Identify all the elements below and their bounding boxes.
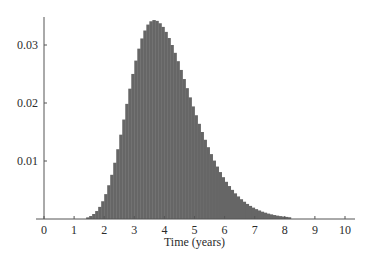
histogram-bar [149,21,152,219]
x-tick-label: 3 [131,223,137,237]
histogram-bar [161,27,164,219]
histogram-bar [119,135,122,219]
x-tick-label: 8 [282,223,288,237]
x-axis-title: Time (years) [164,235,225,249]
histogram-bar [137,49,140,219]
histogram-bar [273,215,276,219]
histogram-bar [107,185,110,219]
histogram-bar [267,214,270,219]
histogram-bar [98,207,101,219]
histogram-bar [195,115,198,219]
histogram-bar [234,193,237,219]
histogram-bar [158,23,161,219]
histogram-bar [152,20,155,219]
x-tick-label: 1 [71,223,77,237]
histogram-bar [182,79,185,219]
histogram-bar [146,25,149,219]
histogram-bar [176,61,179,219]
histogram-bar [125,104,128,219]
histogram-bar [164,32,167,219]
histogram-bar [219,172,222,219]
x-tick-label: 2 [101,223,107,237]
x-tick-label: 10 [339,223,351,237]
histogram-bar [131,74,134,219]
y-tick-label: 0.02 [17,96,38,110]
histogram-bar [243,202,246,219]
histogram-bar [128,89,131,219]
histogram-bar [173,53,176,219]
histogram-bar [204,140,207,219]
histogram-bar [213,161,216,219]
histogram-bar [198,124,201,219]
y-tick-label: 0.01 [17,154,38,168]
histogram-bars [86,20,291,219]
histogram-bar [255,209,258,219]
histogram-bar [155,21,158,219]
histogram-bar [143,31,146,220]
histogram-bar [188,97,191,219]
histogram-bar [240,199,243,219]
histogram-bar [264,213,267,219]
histogram-bar [231,190,234,219]
histogram-bar [134,61,137,219]
x-tick-label: 7 [252,223,258,237]
histogram-bar [140,38,143,219]
histogram-bar [113,163,116,219]
histogram-bar [246,204,249,219]
histogram-bar [167,38,170,219]
y-tick-label: 0.03 [17,38,38,52]
histogram-bar [110,175,113,219]
histogram-bar [207,147,210,219]
histogram-bar [261,212,264,219]
histogram-chart: 012345678910 0.010.020.03 Time (years) [0,0,375,261]
histogram-bar [228,186,231,219]
histogram-bar [216,167,219,219]
histogram-bar [210,154,213,219]
histogram-bar [222,177,225,219]
histogram-bar [170,45,173,219]
histogram-bar [225,182,228,219]
x-tick-label: 0 [41,223,47,237]
histogram-bar [122,120,125,219]
histogram-bar [185,88,188,219]
x-tick-label: 9 [312,223,318,237]
histogram-bar [201,132,204,219]
histogram-bar [270,214,273,219]
histogram-bar [249,206,252,219]
histogram-bar [116,149,119,219]
histogram-bar [92,214,95,219]
histogram-bar [191,106,194,219]
y-axis-ticks: 0.010.020.03 [17,38,47,168]
histogram-bar [276,216,279,219]
histogram-bar [237,196,240,219]
histogram-bar [95,211,98,219]
histogram-bar [179,70,182,219]
histogram-bar [104,194,107,219]
histogram-bar [258,210,261,219]
